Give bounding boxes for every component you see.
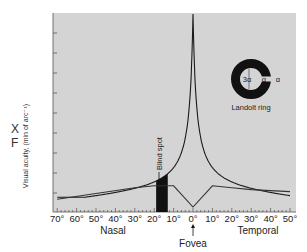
x-tick-label: 20° — [225, 213, 240, 224]
x-tick-label: 30° — [244, 213, 259, 224]
x-tick-label: 30° — [128, 213, 143, 224]
nasal-label: Nasal — [100, 225, 126, 236]
x-tick-label: 50° — [89, 213, 104, 224]
x-tick-labels: 70°60°50°40°30°20°10°0°10°20°30°40°50° — [50, 213, 297, 224]
acuity-chart: 70°60°50°40°30°20°10°0°10°20°30°40°50° B… — [0, 0, 307, 252]
x-tick-label: 60° — [69, 213, 84, 224]
fovea-arrowhead-icon — [191, 224, 195, 228]
x-tick-label: 10° — [205, 213, 220, 224]
ring-width-alpha-label: α — [276, 75, 281, 84]
blind-spot-label: Blind spot — [155, 136, 164, 170]
x-tick-label: 40° — [108, 213, 123, 224]
ring-3alpha-label: 3α — [243, 75, 252, 84]
ring-gap-alpha-label: α — [262, 75, 267, 84]
fovea-label: Fovea — [179, 238, 207, 249]
x-tick-label: 50° — [283, 213, 298, 224]
landolt-ring-label: Landolt ring — [231, 103, 270, 112]
x-tick-label: 20° — [147, 213, 162, 224]
x-tick-label: 70° — [50, 213, 65, 224]
x-tick-label: 0° — [188, 213, 197, 224]
x-tick-label: 40° — [263, 213, 278, 224]
temporal-label: Temporal — [237, 225, 278, 236]
x-tick-label: 10° — [166, 213, 181, 224]
plot-area — [53, 13, 296, 212]
